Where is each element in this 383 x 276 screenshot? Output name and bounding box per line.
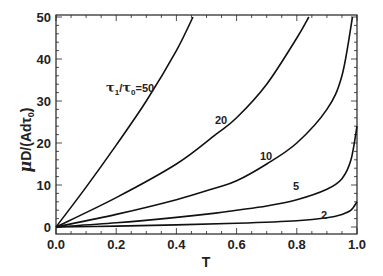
x-tick-label: 0.4 [167, 237, 186, 252]
plot-frame [56, 15, 357, 234]
curve-label-10: 10 [260, 150, 272, 162]
x-tick-label: 0.2 [107, 237, 125, 252]
x-tick-label: 1.0 [348, 237, 366, 252]
x-tick-labels: 0.00.20.40.60.81.0 [47, 237, 366, 252]
y-tick-label: 50 [37, 10, 51, 25]
y-tick-label: 0 [44, 220, 51, 235]
y-tick-label: 30 [37, 94, 51, 109]
y-tick-labels: 01020304050 [37, 10, 51, 235]
x-tick-label: 0.8 [288, 237, 306, 252]
curve-50 [56, 17, 193, 227]
y-axis-title: μD/(Adτ0) [16, 108, 36, 173]
y-tick-label: 40 [37, 52, 51, 67]
y-tick-label: 10 [37, 178, 51, 193]
y-tick-label: 20 [37, 136, 51, 151]
x-tick-label: 0.6 [228, 237, 246, 252]
curve-label-2: 2 [321, 209, 327, 221]
curve-label-5: 5 [293, 180, 299, 192]
curve-20 [56, 17, 309, 227]
curve-label-50: τ1/τ0=50 [106, 80, 154, 97]
x-axis-title: T [202, 254, 211, 270]
x-tick-label: 0.0 [47, 237, 65, 252]
axis-ticks [56, 15, 357, 234]
curve-10 [56, 17, 352, 227]
curve-label-20: 20 [215, 114, 227, 126]
data-curves [56, 17, 357, 227]
chart: 0.00.20.40.60.81.0 01020304050 T μD/(Adτ… [0, 0, 383, 276]
